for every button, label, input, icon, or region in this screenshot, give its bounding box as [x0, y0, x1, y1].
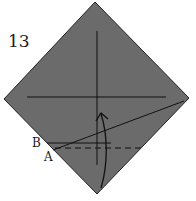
label-point-b: B: [32, 137, 41, 149]
origami-diagram: 13 B A: [0, 0, 196, 201]
label-point-a: A: [44, 151, 53, 163]
step-number: 13: [8, 31, 30, 51]
